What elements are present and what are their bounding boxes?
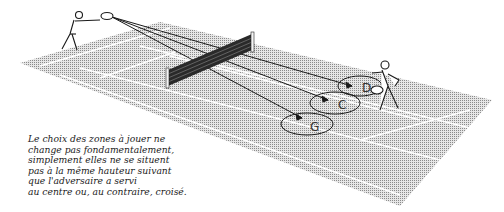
illustration-caption: Le choix des zones à jouer ne change pas… bbox=[28, 134, 258, 198]
zone-label-g: G bbox=[310, 120, 319, 134]
caption-line: Le choix des zones à jouer ne bbox=[28, 134, 258, 145]
caption-line: au centre ou, au contraire, croisé. bbox=[28, 187, 258, 198]
zone-label-c: C bbox=[338, 98, 346, 112]
zone-label-d: D bbox=[362, 81, 371, 95]
